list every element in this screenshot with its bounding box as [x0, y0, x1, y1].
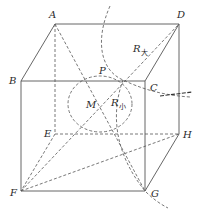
edge-HG	[145, 134, 179, 191]
vertex-label-A: A	[49, 10, 56, 20]
radius-label-small: R小	[111, 98, 126, 111]
edge-DC	[145, 24, 179, 81]
point-label-P: P	[99, 66, 106, 76]
vertex-label-B: B	[9, 76, 16, 86]
edge-EF	[21, 134, 55, 191]
vertex-label-E: E	[44, 129, 51, 139]
point-label-M: M	[86, 100, 96, 110]
vertex-label-H: H	[183, 130, 192, 140]
vertex-label-D: D	[177, 10, 185, 20]
line-FH	[21, 134, 179, 191]
diagonal-FD	[21, 24, 179, 191]
cube-diagram	[0, 0, 200, 212]
vertex-label-F: F	[10, 188, 17, 198]
vertex-label-G: G	[151, 189, 159, 199]
vertex-label-C: C	[150, 83, 158, 93]
edge-AB	[21, 24, 55, 81]
radius-label-large: R大	[133, 44, 148, 57]
